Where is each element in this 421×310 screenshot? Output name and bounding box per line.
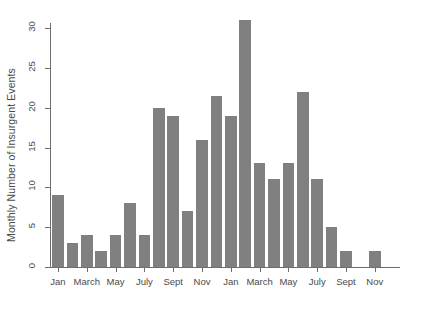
bar — [369, 251, 381, 267]
y-axis-title: Monthly Number of Insurgent Events — [0, 0, 22, 310]
bar — [268, 179, 280, 267]
y-tick-label: 0 — [26, 255, 37, 277]
bar — [81, 235, 93, 267]
y-tick-mark — [45, 267, 50, 268]
bar — [67, 243, 79, 267]
bar — [182, 211, 194, 267]
x-tick-mark — [144, 268, 145, 272]
x-tick-mark — [260, 268, 261, 272]
bar — [239, 20, 251, 267]
bar — [110, 235, 122, 267]
x-axis-line — [50, 267, 400, 268]
bar — [196, 140, 208, 267]
y-axis-line — [50, 23, 51, 267]
x-tick-label: Nov — [352, 276, 398, 287]
bar — [211, 96, 223, 267]
bar — [254, 163, 266, 267]
y-tick-mark — [45, 108, 50, 109]
x-tick-mark — [231, 268, 232, 272]
x-tick-mark — [58, 268, 59, 272]
x-tick-mark — [346, 268, 347, 272]
bar — [139, 235, 151, 267]
x-tick-mark — [173, 268, 174, 272]
x-tick-mark — [288, 268, 289, 272]
y-tick-label: 10 — [26, 175, 37, 197]
y-tick-label: 5 — [26, 215, 37, 237]
bar — [225, 116, 237, 267]
bar — [153, 108, 165, 267]
bar — [297, 92, 309, 267]
y-tick-mark — [45, 68, 50, 69]
y-tick-mark — [45, 227, 50, 228]
bar — [283, 163, 295, 267]
x-tick-mark — [202, 268, 203, 272]
x-tick-mark — [87, 268, 88, 272]
x-tick-mark — [375, 268, 376, 272]
y-tick-label: 25 — [26, 55, 37, 77]
x-tick-mark — [317, 268, 318, 272]
x-tick-mark — [116, 268, 117, 272]
bar — [311, 179, 323, 267]
y-tick-label: 30 — [26, 16, 37, 38]
bar — [326, 227, 338, 267]
bar — [95, 251, 107, 267]
bar — [124, 203, 136, 267]
bar — [340, 251, 352, 267]
y-tick-label: 15 — [26, 135, 37, 157]
y-tick-mark — [45, 28, 50, 29]
y-tick-mark — [45, 148, 50, 149]
bar — [167, 116, 179, 267]
bar-chart: Monthly Number of Insurgent Events 05101… — [0, 0, 421, 310]
y-tick-label: 20 — [26, 95, 37, 117]
y-tick-mark — [45, 187, 50, 188]
bar — [52, 195, 64, 267]
